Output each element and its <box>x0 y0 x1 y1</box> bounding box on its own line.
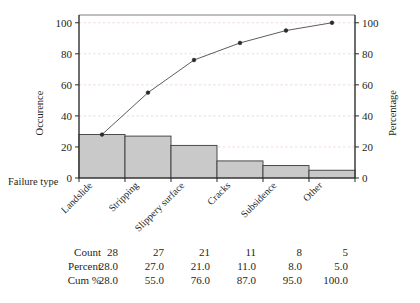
table-cell: 87.0 <box>237 274 257 286</box>
cumulative-line-group <box>100 21 334 137</box>
bar <box>309 170 355 178</box>
data-table: Count2827211185Percent28.027.021.011.08.… <box>68 246 349 286</box>
left-axis-tick-label: 0 <box>67 172 73 184</box>
category-label: Other <box>301 179 325 203</box>
right-axis-tick-label: 40 <box>362 110 374 122</box>
category-label: Stripping <box>106 180 140 214</box>
left-axis: 020406080100 <box>56 15 80 184</box>
table-cell: 27.0 <box>145 260 165 272</box>
bar <box>217 161 263 178</box>
cumulative-marker <box>238 41 242 45</box>
pareto-chart-canvas: 020406080100 020406080100 LandslideStrip… <box>0 0 420 303</box>
table-cell: 100.0 <box>323 274 348 286</box>
right-axis-tick-label: 20 <box>362 141 374 153</box>
table-cell: 27 <box>153 246 165 258</box>
pareto-chart: 020406080100 020406080100 LandslideStrip… <box>0 0 420 303</box>
left-axis-tick-label: 80 <box>61 48 73 60</box>
right-axis: 020406080100 <box>355 15 379 184</box>
table-cell: 8.0 <box>288 260 302 272</box>
cumulative-marker <box>284 29 288 33</box>
left-axis-tick-label: 60 <box>61 79 73 91</box>
right-axis-title: Percentage <box>387 90 398 136</box>
table-cell: 28.0 <box>99 274 119 286</box>
cumulative-marker <box>100 133 104 137</box>
table-cell: 21.0 <box>191 260 211 272</box>
x-axis-title: Failure type <box>8 176 59 187</box>
category-label: Slippery surface <box>132 179 186 233</box>
table-cell: 76.0 <box>191 274 211 286</box>
cumulative-marker <box>192 58 196 62</box>
category-label: Landslide <box>59 179 95 215</box>
cumulative-marker <box>330 21 334 25</box>
table-row-label: Count <box>74 246 101 258</box>
category-label: Subsidence <box>238 179 278 219</box>
right-axis-tick-label: 80 <box>362 48 374 60</box>
table-cell: 5.0 <box>334 260 348 272</box>
cumulative-marker <box>146 91 150 95</box>
left-axis-tick-label: 20 <box>61 141 73 153</box>
right-axis-tick-label: 60 <box>362 79 374 91</box>
category-labels-group: LandslideStrippingSlippery surfaceCracks… <box>59 179 325 233</box>
table-cell: 11 <box>245 246 256 258</box>
table-cell: 28 <box>107 246 119 258</box>
gridlines-group <box>79 23 355 147</box>
bar <box>171 145 217 178</box>
right-axis-tick-label: 0 <box>362 172 368 184</box>
table-row-label: Percent <box>68 260 101 272</box>
cumulative-percentage-line <box>102 23 332 135</box>
table-cell: 28.0 <box>99 260 119 272</box>
bar <box>263 166 309 178</box>
table-cell: 5 <box>343 246 349 258</box>
table-cell: 21 <box>199 246 210 258</box>
table-cell: 55.0 <box>145 274 165 286</box>
left-axis-tick-label: 40 <box>61 110 73 122</box>
table-cell: 8 <box>297 246 303 258</box>
table-cell: 11.0 <box>237 260 256 272</box>
category-label: Cracks <box>205 180 232 207</box>
table-row-label: Cum % <box>68 274 101 286</box>
left-axis-title: Occurence <box>34 90 45 135</box>
table-cell: 95.0 <box>283 274 303 286</box>
bar <box>79 135 125 178</box>
right-axis-tick-label: 100 <box>362 17 379 29</box>
bars-group <box>79 135 355 178</box>
bar <box>125 136 171 178</box>
left-axis-tick-label: 100 <box>56 17 73 29</box>
